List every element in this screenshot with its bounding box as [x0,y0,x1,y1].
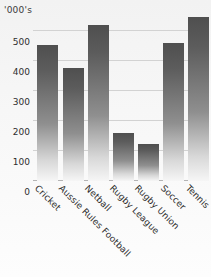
y-tick-label: 100 [13,157,30,167]
bar-chart: '000's 500 400 300 200 100 0 Cricket [0,0,211,277]
bar-rugby-union[interactable] [138,144,159,181]
bars [33,12,209,181]
x-tick-label-tennis: Tennis [184,183,211,210]
plot-area [33,12,209,181]
y-tick-label: 0 [24,187,30,197]
bar-cricket[interactable] [37,45,58,182]
y-tick-label: 400 [13,67,30,77]
y-axis-tick-labels: 500 400 300 200 100 0 [0,12,30,181]
bar-tennis[interactable] [188,17,209,181]
bar-soccer[interactable] [163,43,184,181]
bar-netball[interactable] [88,25,109,181]
x-axis-tick-labels: Cricket Aussie Rules Football Netball Ru… [33,183,209,275]
y-tick-label: 500 [13,37,30,47]
y-tick-label: 200 [13,127,30,137]
y-tick-label: 300 [13,97,30,107]
bar-aussie-rules-football[interactable] [63,68,84,181]
bar-rugby-league[interactable] [113,133,134,181]
